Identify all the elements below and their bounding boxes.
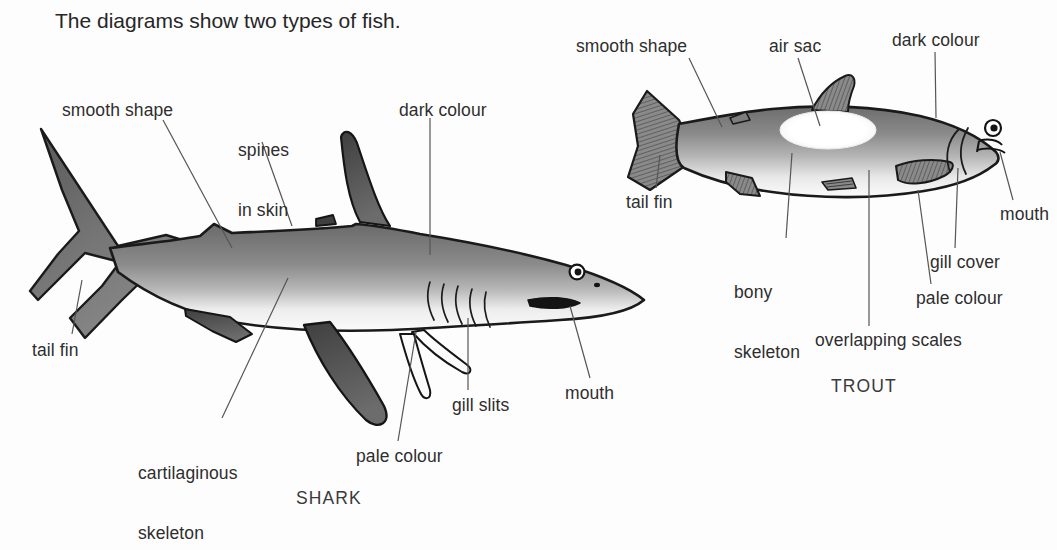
label-trout-gill-cover: gill cover bbox=[930, 252, 1000, 273]
diagram-canvas: The diagrams show two types of fish. bbox=[0, 0, 1057, 550]
shark-nostril bbox=[594, 283, 600, 287]
label-trout-air-sac: air sac bbox=[769, 36, 821, 57]
caption-shark: SHARK bbox=[296, 488, 362, 509]
shark-illustration bbox=[30, 129, 644, 425]
label-shark-tail-fin: tail fin bbox=[32, 340, 79, 361]
label-trout-bony-line2: skeleton bbox=[734, 342, 800, 362]
leader-trout-mouth bbox=[1000, 152, 1013, 200]
label-shark-cartilaginous-line1: cartilaginous bbox=[138, 463, 238, 483]
trout-illustration bbox=[628, 75, 1005, 197]
leader-trout-dark-colour bbox=[935, 52, 936, 118]
caption-trout: TROUT bbox=[831, 376, 897, 397]
label-trout-dark-colour: dark colour bbox=[892, 30, 980, 51]
shark-eye bbox=[570, 265, 585, 280]
label-shark-dark-colour: dark colour bbox=[399, 100, 487, 121]
label-shark-pale-colour: pale colour bbox=[356, 446, 443, 467]
shark-dorsal-notch bbox=[316, 215, 336, 226]
label-trout-bony-line1: bony bbox=[734, 282, 800, 302]
trout-dorsal-fin bbox=[812, 75, 855, 112]
label-shark-cartilaginous-line2: skeleton bbox=[138, 523, 238, 543]
label-shark-smooth-shape: smooth shape bbox=[62, 100, 173, 121]
leader-shark-smooth-shape bbox=[163, 120, 232, 248]
label-shark-gill-slits: gill slits bbox=[452, 395, 509, 416]
label-shark-spines-in-skin: spines in skin bbox=[238, 100, 289, 260]
label-trout-bony-skeleton: bony skeleton bbox=[734, 242, 800, 402]
label-trout-mouth: mouth bbox=[1000, 204, 1049, 225]
label-trout-tail-fin: tail fin bbox=[626, 192, 673, 213]
label-trout-pale-colour: pale colour bbox=[916, 288, 1003, 309]
trout-air-sac bbox=[780, 111, 876, 149]
trout-eye bbox=[985, 120, 1001, 136]
shark-pectoral-fin bbox=[304, 322, 386, 425]
leader-trout-smooth-shape bbox=[689, 58, 722, 127]
label-trout-overlapping-scales: overlapping scales bbox=[815, 330, 962, 351]
label-shark-spines-line1: spines bbox=[238, 140, 289, 160]
label-shark-mouth: mouth bbox=[565, 383, 614, 404]
label-trout-smooth-shape: smooth shape bbox=[576, 36, 687, 57]
shark-dorsal-fin bbox=[341, 132, 390, 226]
label-shark-spines-line2: in skin bbox=[238, 200, 289, 220]
label-shark-cartilaginous-skeleton: cartilaginous skeleton bbox=[138, 423, 238, 550]
